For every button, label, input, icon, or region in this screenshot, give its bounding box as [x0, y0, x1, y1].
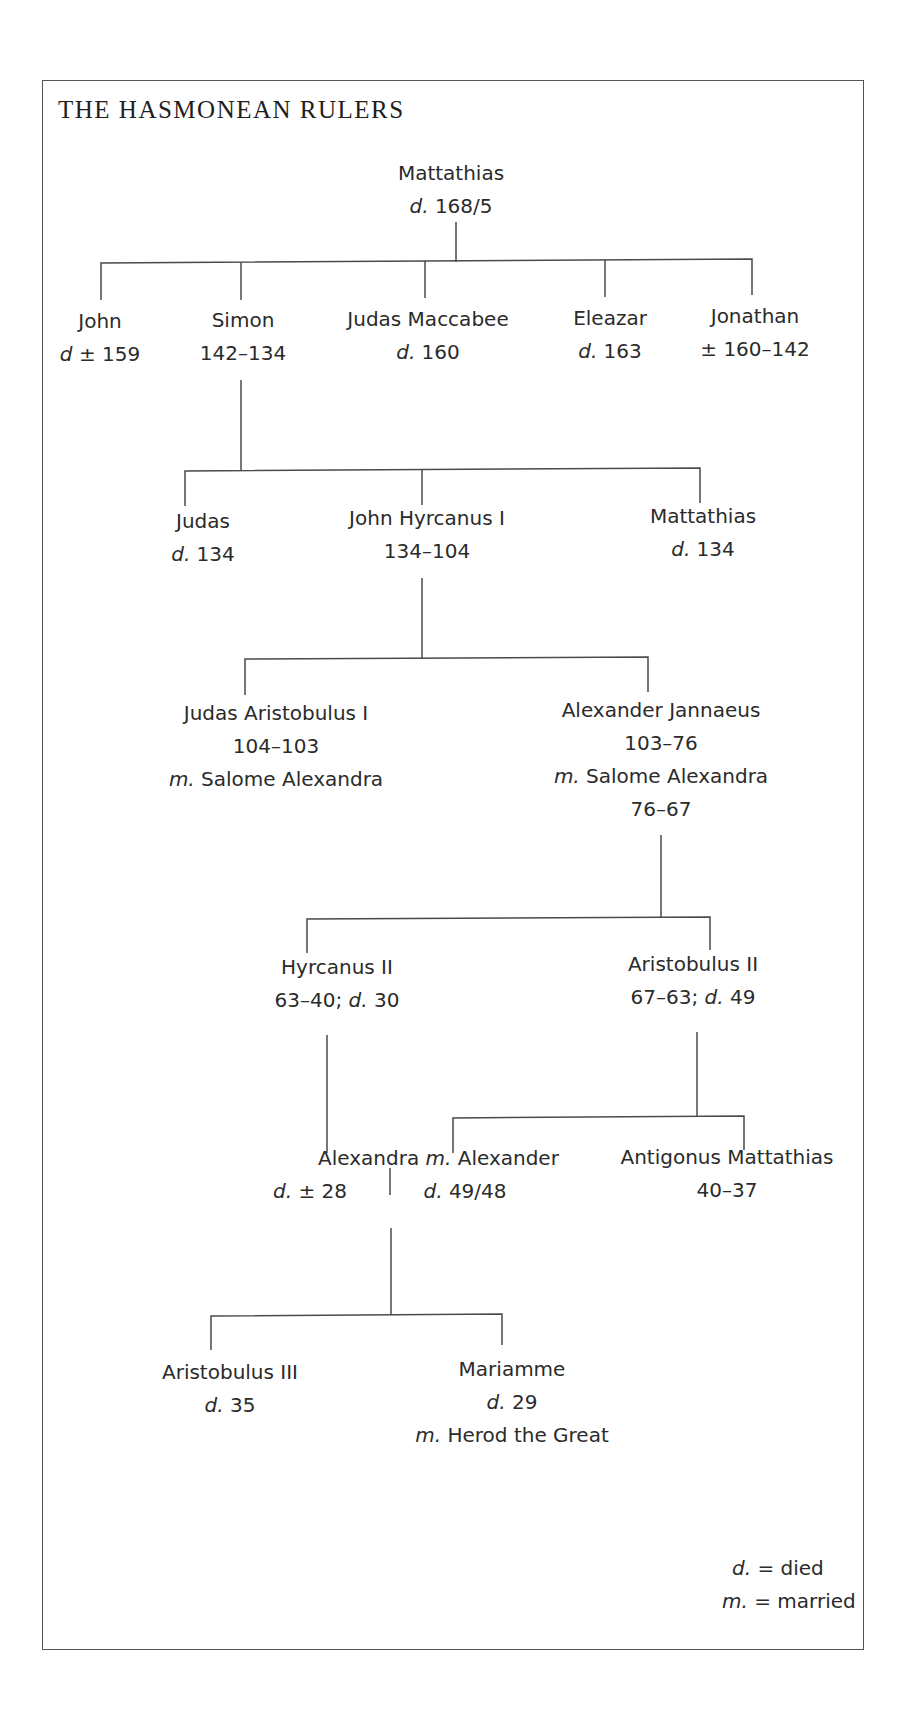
node-judas: Judas d. 134: [171, 505, 235, 571]
married-abbr: m.: [415, 1423, 441, 1447]
died-abbr: d.: [409, 194, 428, 218]
node-name: Mattathias: [650, 500, 756, 533]
married-abbr: m.: [426, 1146, 452, 1170]
died-abbr: d.: [273, 1179, 292, 1203]
legend-meaning: = died: [751, 1556, 824, 1580]
node-date: 103–76: [554, 727, 768, 760]
node-name: Jonathan: [700, 300, 809, 333]
node-date: ± 160–142: [700, 333, 809, 366]
node-alexander-jannaeus: Alexander Jannaeus 103–76 m. Salome Alex…: [554, 694, 768, 826]
node-spouse: Herod the Great: [441, 1423, 609, 1447]
tree-connectors: [0, 0, 907, 1734]
died-abbr: d.: [396, 340, 415, 364]
node-name: Alexander Jannaeus: [554, 694, 768, 727]
node-date: 29: [506, 1390, 538, 1414]
node-name: John Hyrcanus I: [349, 502, 505, 535]
legend-abbr: m.: [722, 1589, 748, 1613]
died-abbr: d.: [205, 1393, 224, 1417]
node-judas-aristobulus-i: Judas Aristobulus I 104–103 m. Salome Al…: [169, 697, 383, 796]
node-name: Antigonus Mattathias: [620, 1141, 833, 1174]
node-date: 35: [224, 1393, 256, 1417]
node-name: Mariamme: [415, 1353, 608, 1386]
legend-item-married: m. = married: [722, 1585, 856, 1618]
node-hyrcanus-ii: Hyrcanus II 63–40; d. 30: [275, 951, 400, 1017]
died-abbr: d.: [349, 988, 368, 1012]
node-date: 134–104: [349, 535, 505, 568]
node-date: 168/5: [429, 194, 493, 218]
died-abbr: d.: [423, 1179, 442, 1203]
node-date: 104–103: [169, 730, 383, 763]
legend: d. = died m. = married: [722, 1552, 856, 1618]
node-date: 49/48: [443, 1179, 507, 1203]
node-aristobulus-iii: Aristobulus III d. 35: [162, 1356, 298, 1422]
node-aristobulus-ii: Aristobulus II 67–63; d. 49: [628, 948, 758, 1014]
node-date: 163: [597, 339, 642, 363]
node-death: 30: [368, 988, 400, 1012]
node-john: John d ± 159: [60, 305, 140, 371]
died-abbr: d.: [705, 985, 724, 1009]
died-abbr: d.: [487, 1390, 506, 1414]
node-date: ± 159: [73, 342, 141, 366]
node-date: 67–63;: [631, 985, 705, 1009]
legend-abbr: d.: [732, 1556, 751, 1580]
node-name: Judas Aristobulus I: [169, 697, 383, 730]
died-abbr: d: [60, 342, 73, 366]
married-abbr: m.: [554, 764, 580, 788]
node-mattathias-root: Mattathias d. 168/5: [398, 157, 504, 223]
died-abbr: d.: [578, 339, 597, 363]
node-name: Simon: [200, 304, 286, 337]
node-name-alexander: Alexander: [451, 1146, 559, 1170]
node-name: Eleazar: [573, 302, 647, 335]
node-mattathias-gen2: Mattathias d. 134: [650, 500, 756, 566]
node-name: Aristobulus II: [628, 948, 758, 981]
died-abbr: d.: [171, 542, 190, 566]
node-date: 142–134: [200, 337, 286, 370]
node-date: 63–40;: [275, 988, 349, 1012]
node-name: Judas: [171, 505, 235, 538]
node-alexander-date: d. 49/48: [423, 1175, 506, 1208]
node-alexandra: Alexandra m. Alexander: [318, 1142, 559, 1175]
node-date: 134: [690, 537, 735, 561]
node-simon: Simon 142–134: [200, 304, 286, 370]
node-name: John: [60, 305, 140, 338]
node-date: ± 28: [292, 1179, 347, 1203]
node-spouse: Salome Alexandra: [195, 767, 383, 791]
node-spouse: Salome Alexandra: [580, 764, 768, 788]
node-john-hyrcanus-i: John Hyrcanus I 134–104: [349, 502, 505, 568]
node-spouse-date: 76–67: [554, 793, 768, 826]
node-name: Alexandra: [318, 1146, 419, 1170]
node-name: Mattathias: [398, 157, 504, 190]
node-date: 134: [190, 542, 235, 566]
node-death: 49: [724, 985, 756, 1009]
married-abbr: m.: [169, 767, 195, 791]
node-jonathan: Jonathan ± 160–142: [700, 300, 809, 366]
legend-item-died: d. = died: [722, 1552, 856, 1585]
node-antigonus-mattathias: Antigonus Mattathias 40–37: [620, 1141, 833, 1207]
node-date: 160: [415, 340, 460, 364]
node-eleazar: Eleazar d. 163: [573, 302, 647, 368]
died-abbr: d.: [671, 537, 690, 561]
node-mariamme: Mariamme d. 29 m. Herod the Great: [415, 1353, 608, 1452]
node-name: Hyrcanus II: [275, 951, 400, 984]
node-name: Aristobulus III: [162, 1356, 298, 1389]
node-name: Judas Maccabee: [347, 303, 508, 336]
node-alexandra-date: d. ± 28: [273, 1175, 347, 1208]
legend-meaning: = married: [748, 1589, 856, 1613]
node-date: 40–37: [620, 1174, 833, 1207]
node-judas-maccabee: Judas Maccabee d. 160: [347, 303, 508, 369]
